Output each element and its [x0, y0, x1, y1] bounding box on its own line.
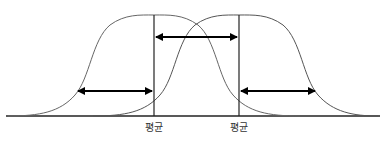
right-distribution-curve [93, 15, 378, 116]
distribution-diagram [0, 0, 385, 141]
left-mean-label: 평균 [145, 119, 163, 134]
right-mean-label: 평균 [230, 119, 248, 134]
